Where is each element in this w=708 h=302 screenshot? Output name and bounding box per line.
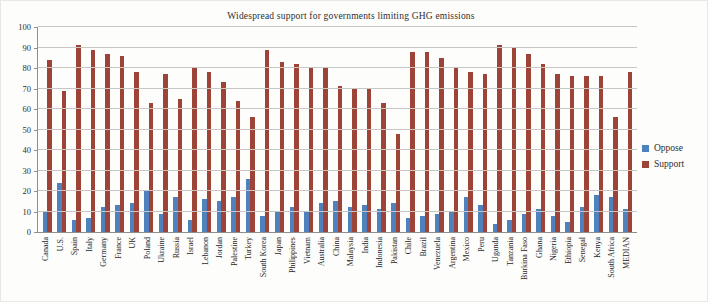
legend-item-oppose: Oppose (642, 143, 684, 153)
x-tick-label: Vietnam (304, 237, 312, 264)
bar-group (345, 27, 360, 232)
y-tick-label: 40 (23, 145, 32, 155)
x-tick-label: Argentina (449, 237, 457, 269)
x-tick-label: Pakistan (391, 237, 399, 264)
y-tick-label: 100 (18, 22, 31, 32)
x-label-cell: Poland (141, 235, 156, 301)
gridline-60 (38, 108, 637, 109)
support-bar (294, 64, 299, 232)
bar-group (519, 27, 534, 232)
support-bar (570, 76, 575, 232)
bar-group (446, 27, 461, 232)
support-bar (120, 56, 125, 232)
x-tick-label: UK (129, 237, 137, 249)
x-tick-label: China (333, 237, 341, 256)
x-tick-label: U.S. (57, 237, 65, 251)
x-label-cell: Venezuela (431, 235, 446, 301)
bar-group (258, 27, 273, 232)
legend-label: Support (654, 159, 684, 169)
bar-group (592, 27, 607, 232)
support-bar (134, 72, 139, 232)
x-label-cell: South Africa (605, 235, 620, 301)
bar-group (461, 27, 476, 232)
bar-group (548, 27, 563, 232)
x-label-cell: Vietnam (300, 235, 315, 301)
x-label-cell: Jordan (213, 235, 228, 301)
x-tick-label: Germany (100, 237, 108, 267)
x-label-cell: Ethiopia (562, 235, 577, 301)
bar-group (505, 27, 520, 232)
support-bar (91, 50, 96, 232)
support-bar (381, 103, 386, 232)
support-bar (555, 74, 560, 232)
x-label-cell: Italy (83, 235, 98, 301)
x-label-cell: France (112, 235, 127, 301)
x-label-cell: Brazil (416, 235, 431, 301)
x-tick-label: Ukraine (158, 237, 166, 263)
bar-group (388, 27, 403, 232)
y-tick-label: 0 (27, 227, 31, 237)
y-tick-label: 70 (23, 84, 32, 94)
gridline-100 (38, 26, 637, 27)
bar-group (417, 27, 432, 232)
support-bar (236, 101, 241, 232)
x-tick-label: Spain (71, 237, 79, 255)
x-tick-label: Senegal (579, 237, 587, 262)
x-label-cell: Japan (271, 235, 286, 301)
support-bar (265, 50, 270, 232)
x-label-cell: Spain (68, 235, 83, 301)
support-bar (526, 54, 531, 232)
x-label-cell: Palestine (228, 235, 243, 301)
support-swatch (642, 161, 649, 168)
gridline-70 (38, 88, 637, 89)
x-label-cell: Turkey (242, 235, 257, 301)
x-tick-label: Poland (144, 237, 152, 259)
bar-group (301, 27, 316, 232)
x-label-cell: UK (126, 235, 141, 301)
support-bar (497, 45, 502, 232)
x-label-cell: Tanzania (504, 235, 519, 301)
x-tick-label: Turkey (245, 237, 253, 260)
bar-group (359, 27, 374, 232)
support-bar (454, 68, 459, 232)
support-bar (613, 117, 618, 232)
support-bar (323, 68, 328, 232)
bar-group (156, 27, 171, 232)
x-label-cell: Senegal (576, 235, 591, 301)
x-tick-label: Peru (478, 237, 486, 252)
y-tick-label: 50 (23, 125, 32, 135)
x-label-cell: Mexico (460, 235, 475, 301)
x-tick-label: South Africa (608, 237, 616, 278)
x-label-cell: China (329, 235, 344, 301)
support-bar (410, 52, 415, 232)
x-label-cell: Russia (170, 235, 185, 301)
gridline-10 (38, 211, 637, 212)
x-tick-label: Nigeria (550, 237, 558, 261)
x-tick-label: Uganda (492, 237, 500, 262)
bar-group (142, 27, 157, 232)
chart-title: Widespread support for governments limit… (1, 11, 701, 21)
x-tick-label: Russia (173, 237, 181, 258)
x-label-cell: Burkina Faso (518, 235, 533, 301)
x-label-cell: Kenya (591, 235, 606, 301)
y-axis: 0102030405060708090100 (1, 27, 37, 232)
bar-group (432, 27, 447, 232)
y-tick-label: 10 (23, 207, 32, 217)
x-tick-label: Tanzania (507, 237, 515, 266)
x-tick-label: India (362, 237, 370, 253)
bar-group (287, 27, 302, 232)
x-tick-label: South Korea (260, 237, 268, 277)
x-tick-label: Israel (187, 237, 195, 255)
support-bar (541, 64, 546, 232)
x-label-cell: India (358, 235, 373, 301)
bar-group (200, 27, 215, 232)
x-tick-label: Lebanon (202, 237, 210, 265)
x-label-cell: South Korea (257, 235, 272, 301)
bar-group (127, 27, 142, 232)
support-bar (76, 45, 81, 232)
support-bar (105, 54, 110, 232)
x-tick-label: Australia (318, 237, 326, 266)
x-tick-label: Malaysia (347, 237, 355, 266)
support-bar (207, 72, 212, 232)
x-label-cell: Uganda (489, 235, 504, 301)
